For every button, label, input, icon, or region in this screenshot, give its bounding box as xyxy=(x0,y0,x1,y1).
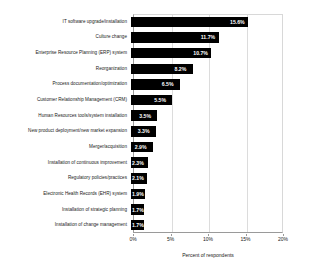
bar-track: 1.7% xyxy=(130,204,312,215)
bar-row: Culture change11.7% xyxy=(0,32,312,43)
category-label: Culture change xyxy=(0,34,130,40)
category-label: Installation of continuous improvement xyxy=(0,160,130,166)
bar-value-label: 11.7% xyxy=(201,34,215,40)
bar-value-label: 1.7% xyxy=(132,222,144,228)
category-label: IT software upgrade/installation xyxy=(0,19,130,25)
category-label: Process documentation/optimization xyxy=(0,81,130,87)
bar-value-label: 2.3% xyxy=(132,160,144,166)
bar-track: 11.7% xyxy=(130,32,312,43)
bar-row: New product deployment/new market expans… xyxy=(0,126,312,137)
bar-track: 2.1% xyxy=(130,173,312,184)
category-label: Electronic Health Records (EHR) system xyxy=(0,191,130,197)
bar-row: Human Resources tools/system installatio… xyxy=(0,110,312,121)
category-label: Merger/acquisition xyxy=(0,144,130,150)
bar-track: 1.9% xyxy=(130,189,312,200)
bar-value-label: 2.1% xyxy=(132,175,144,181)
x-tick-label: 10% xyxy=(203,236,213,242)
category-label: Installation of change management xyxy=(0,222,130,228)
bar-row: IT software upgrade/installation15.6% xyxy=(0,17,312,28)
bar-track: 15.6% xyxy=(130,17,312,28)
bar-row: Installation of continuous improvement2.… xyxy=(0,157,312,168)
bar-row: Process documentation/optimization6.5% xyxy=(0,79,312,90)
bar-track: 8.2% xyxy=(130,64,312,75)
bar-row: Customer Relationship Management (CRM)5.… xyxy=(0,95,312,106)
bar-value-label: 1.9% xyxy=(132,191,144,197)
bar-row: Electronic Health Records (EHR) system1.… xyxy=(0,189,312,200)
bar-row: Enterprise Resource Planning (ERP) syste… xyxy=(0,48,312,59)
bar-row: Merger/acquisition2.9% xyxy=(0,142,312,153)
bar-value-label: 5.5% xyxy=(154,97,166,103)
category-label: Reorganization xyxy=(0,66,130,72)
bar-value-label: 3.3% xyxy=(138,128,150,134)
bar-track: 10.7% xyxy=(130,48,312,59)
category-label: Regulatory policies/practices xyxy=(0,175,130,181)
bar-track: 3.5% xyxy=(130,110,312,121)
bar-track: 5.5% xyxy=(130,95,312,106)
category-label: Customer Relationship Management (CRM) xyxy=(0,97,130,103)
bar-track: 1.7% xyxy=(130,220,312,231)
bar-row: Regulatory policies/practices2.1% xyxy=(0,173,312,184)
bar-value-label: 1.7% xyxy=(132,207,144,213)
bar-track: 6.5% xyxy=(130,79,312,90)
x-tick-label: 20% xyxy=(278,236,288,242)
x-tick-label: 0% xyxy=(129,236,136,242)
category-label: New product deployment/new market expans… xyxy=(0,128,130,134)
x-tick-label: 15% xyxy=(240,236,250,242)
bar-track: 3.3% xyxy=(130,126,312,137)
bar-row: Reorganization8.2% xyxy=(0,64,312,75)
bar-row: Installation of strategic planning1.7% xyxy=(0,204,312,215)
bar-value-label: 15.6% xyxy=(230,19,245,25)
bar-track: 2.9% xyxy=(130,142,312,153)
x-axis: 0%5%10%15%20% xyxy=(0,234,312,244)
bar-rows: IT software upgrade/installation15.6%Cul… xyxy=(0,14,312,233)
bar-value-label: 6.5% xyxy=(162,81,174,87)
category-label: Installation of strategic planning xyxy=(0,207,130,213)
bar-chart: IT software upgrade/installation15.6%Cul… xyxy=(0,0,312,275)
bar-row: Installation of change management1.7% xyxy=(0,220,312,231)
x-axis-title: Percent of respondents xyxy=(133,252,283,258)
bar-value-label: 3.5% xyxy=(139,113,151,119)
bar-value-label: 2.9% xyxy=(135,144,147,150)
bar-track: 2.3% xyxy=(130,157,312,168)
bar-value-label: 8.2% xyxy=(175,66,187,72)
category-label: Enterprise Resource Planning (ERP) syste… xyxy=(0,50,130,56)
category-label: Human Resources tools/system installatio… xyxy=(0,113,130,119)
x-tick-label: 5% xyxy=(167,236,174,242)
bar-value-label: 10.7% xyxy=(193,50,208,56)
